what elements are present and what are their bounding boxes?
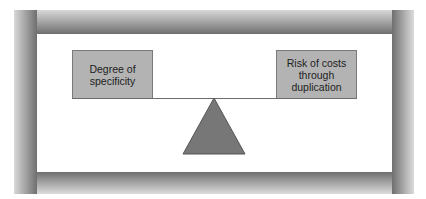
- frame-shade-top: [14, 10, 414, 34]
- left-weight-label: Degree of specificity: [89, 63, 135, 87]
- fulcrum-triangle-icon: [182, 98, 246, 156]
- right-weight-box: Risk of costs through duplication: [276, 50, 357, 99]
- right-weight-label: Risk of costs through duplication: [287, 57, 347, 93]
- frame-shade-right: [392, 10, 414, 194]
- frame-shade-left: [14, 10, 37, 194]
- left-weight-box: Degree of specificity: [72, 50, 153, 99]
- frame-shade-bottom: [14, 172, 414, 194]
